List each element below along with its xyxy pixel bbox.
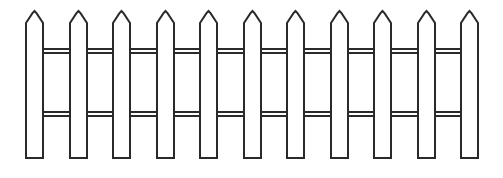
fence-picket-7 xyxy=(287,11,304,158)
fence-picket-4 xyxy=(157,11,174,158)
fence-picket-3 xyxy=(113,11,130,158)
fence-picket-10 xyxy=(418,11,435,158)
picket-fence-drawing xyxy=(0,0,503,178)
fence-picket-6 xyxy=(244,11,261,158)
fence-picket-1 xyxy=(26,11,43,158)
fence-picket-11 xyxy=(461,11,478,158)
picket-fence-figure xyxy=(0,0,503,178)
fence-picket-9 xyxy=(374,11,391,158)
fence-picket-5 xyxy=(200,11,217,158)
fence-picket-8 xyxy=(331,11,348,158)
fence-picket-2 xyxy=(70,11,87,158)
